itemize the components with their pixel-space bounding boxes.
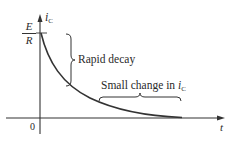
initial-value-label: E R: [22, 21, 36, 46]
y-axis-arrowhead: [38, 14, 43, 22]
x-axis-arrowhead: [217, 116, 225, 121]
rapid-decay-brace: [66, 34, 75, 86]
y-axis-label: iC: [45, 11, 53, 25]
fraction-denominator: R: [22, 35, 36, 46]
small-change-label: Small change in iC: [101, 80, 186, 93]
small-change-brace: [99, 93, 181, 101]
x-axis-label: t: [220, 122, 223, 133]
small-change-subscript: C: [181, 85, 186, 93]
rapid-decay-label: Rapid decay: [78, 54, 135, 66]
origin-label: 0: [30, 122, 35, 132]
y-axis-subscript: C: [48, 17, 53, 25]
small-change-text: Small change in: [101, 79, 178, 91]
fraction-numerator: E: [22, 21, 36, 32]
decay-curve: [41, 33, 182, 118]
